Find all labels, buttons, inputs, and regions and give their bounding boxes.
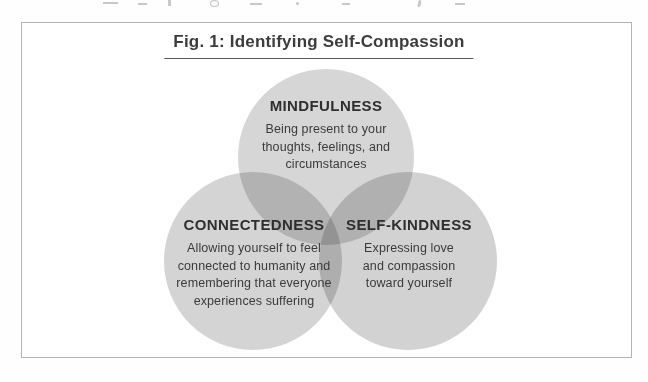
connectedness-heading: CONNECTEDNESS [163, 216, 345, 233]
text-fragment-mark [103, 2, 118, 4]
connectedness-description: Allowing yourself to feel connected to h… [163, 240, 345, 310]
self-kindness-label: SELF-KINDNESS Expressing love and compas… [346, 216, 472, 293]
text-fragment-mark [417, 0, 421, 7]
text-fragment-mark [342, 3, 350, 5]
self-kindness-description: Expressing love and compassion toward yo… [353, 240, 465, 293]
clipped-text-fragment [0, 0, 648, 8]
venn-diagram: MINDFULNESS Being present to your though… [22, 23, 631, 357]
figure-box: Fig. 1: Identifying Self-Compassion MIND… [21, 22, 632, 358]
text-fragment-mark [296, 2, 299, 5]
connectedness-label: CONNECTEDNESS Allowing yourself to feel … [163, 216, 345, 310]
text-fragment-mark [455, 3, 465, 5]
self-kindness-heading: SELF-KINDNESS [346, 216, 472, 233]
mindfulness-description: Being present to your thoughts, feelings… [250, 121, 402, 174]
mindfulness-label: MINDFULNESS Being present to your though… [250, 97, 402, 174]
text-fragment-mark [250, 3, 262, 5]
text-fragment-mark [138, 3, 147, 5]
text-fragment-mark [210, 0, 219, 7]
scanned-page: Fig. 1: Identifying Self-Compassion MIND… [0, 0, 648, 382]
mindfulness-heading: MINDFULNESS [250, 97, 402, 114]
text-fragment-mark [168, 0, 171, 6]
